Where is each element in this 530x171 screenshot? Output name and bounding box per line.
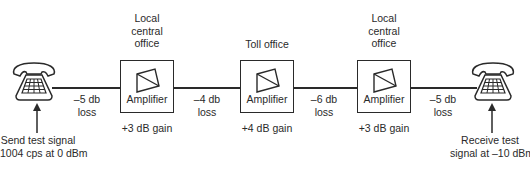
office-3-gain: +3 dB gain — [349, 122, 419, 135]
link-loss-1: –5 db loss — [66, 93, 108, 118]
receive-telephone-icon — [469, 60, 517, 106]
office-1-gain: +3 dB gain — [112, 122, 182, 135]
office-3-title: Local central office — [354, 12, 414, 50]
receive-label: Receive test signal at –10 dBm — [450, 134, 530, 159]
office-2-title: Toll office — [232, 38, 302, 51]
send-label: Send test signal 1004 cps at 0 dBm — [0, 134, 76, 159]
receive-arrow-icon — [488, 103, 496, 137]
office-1-title: Local central office — [117, 12, 177, 50]
link-loss-2: –4 db loss — [186, 93, 228, 118]
send-arrow-icon — [33, 103, 41, 137]
amplifier-box-1: Amplifier — [120, 60, 174, 113]
link-loss-4: –5 db loss — [422, 93, 464, 118]
office-2-gain: +4 dB gain — [232, 122, 302, 135]
link-line-4 — [411, 87, 477, 89]
amplifier-icon — [255, 68, 281, 94]
amplifier-label: Amplifier — [358, 93, 410, 105]
amplifier-label: Amplifier — [121, 93, 173, 105]
amplifier-icon — [372, 68, 398, 94]
link-line-3 — [294, 87, 358, 89]
link-loss-3: –6 db loss — [303, 93, 345, 118]
amplifier-box-3: Amplifier — [357, 60, 411, 113]
amplifier-label: Amplifier — [241, 93, 293, 105]
link-line-2 — [174, 87, 240, 89]
link-line-1 — [52, 87, 120, 89]
send-telephone-icon — [10, 60, 58, 106]
amplifier-icon — [135, 68, 161, 94]
amplifier-box-2: Amplifier — [240, 60, 294, 113]
